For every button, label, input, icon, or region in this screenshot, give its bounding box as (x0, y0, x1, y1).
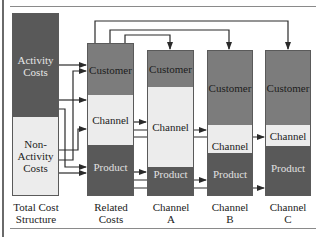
product-segment: Product (148, 167, 193, 195)
segment-label: Costs (23, 162, 47, 174)
arrow-nonactivity-to-channel (58, 129, 86, 150)
caption-channel-a: Channel A (137, 201, 205, 225)
caption-line: A (137, 213, 205, 225)
product-segment: Product (266, 146, 310, 195)
channel-segment: Channel (266, 125, 310, 146)
non-activity-costs-segment: Non- Activity Costs (13, 117, 58, 195)
segment-label: Channel (92, 114, 129, 126)
channel-c-column: Customer Channel Product (265, 50, 311, 196)
caption-line: Costs (77, 213, 145, 225)
customer-segment: Customer (148, 51, 193, 87)
caption-line: Total Cost (2, 201, 70, 213)
channel-segment: Channel (208, 125, 252, 153)
segment-label: Activity (17, 54, 53, 66)
segment-label: Channel (270, 130, 307, 142)
channel-segment: Channel (148, 87, 193, 167)
segment-label: Activity (17, 150, 53, 162)
customer-segment: Customer (266, 51, 310, 125)
segment-label: Channel (212, 140, 249, 152)
customer-segment: Customer (88, 44, 133, 95)
segment-label: Customer (209, 82, 252, 94)
segment-label: Costs (23, 66, 47, 78)
caption-related-costs: Related Costs (77, 201, 145, 225)
caption-line: Channel (254, 201, 322, 213)
segment-label: Customer (89, 64, 132, 76)
channel-segment: Channel (88, 95, 133, 145)
segment-label: Customer (149, 63, 192, 75)
segment-label: Product (93, 161, 127, 173)
segment-label: Product (213, 168, 247, 180)
arrow-nonactivity-to-customer (58, 71, 86, 160)
total-cost-structure-column: Activity Costs Non- Activity Costs (12, 13, 59, 196)
segment-label: Non- (24, 138, 47, 150)
channel-a-column: Customer Channel Product (147, 50, 194, 196)
activity-costs-segment: Activity Costs (13, 14, 58, 117)
segment-label: Product (271, 162, 305, 174)
caption-channel-c: Channel C (254, 201, 322, 225)
customer-segment: Customer (208, 51, 252, 125)
caption-line: Structure (2, 213, 70, 225)
caption-line: Channel (137, 201, 205, 213)
segment-label: Product (153, 168, 187, 180)
channel-b-column: Customer Channel Product (207, 50, 253, 196)
related-costs-column: Customer Channel Product (87, 43, 134, 196)
segment-label: Customer (267, 82, 310, 94)
caption-line: Related (77, 201, 145, 213)
caption-total-cost-structure: Total Cost Structure (2, 201, 70, 225)
product-segment: Product (88, 145, 133, 195)
arrow-activity-to-product (58, 109, 86, 167)
caption-line: C (254, 213, 322, 225)
product-segment: Product (208, 153, 252, 195)
segment-label: Channel (152, 121, 189, 133)
